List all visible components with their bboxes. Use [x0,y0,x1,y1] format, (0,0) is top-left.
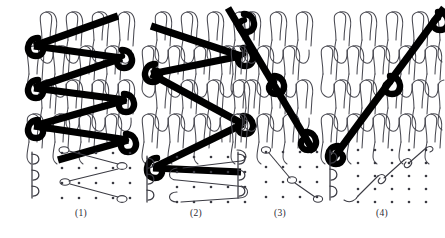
panel-4-artwork [322,0,442,205]
lapping-path [344,147,433,202]
panel-4-caption: (4) [322,208,442,218]
panel-3: (3) [230,0,330,238]
panel-3-caption: (3) [230,208,330,218]
panel-1-svg [22,0,140,205]
lapping-path [261,147,322,202]
panel-1-artwork [22,0,140,205]
panel-3-artwork [230,0,330,205]
needle-symbols [238,152,245,198]
panel-4: (4) [322,0,442,238]
panel-4-svg [322,0,442,205]
panel-1-caption: (1) [22,208,140,218]
panel-3-svg [230,0,330,205]
point-paper-dots [357,149,428,204]
panel-1: (1) [22,0,140,238]
figure-root: (1) [0,0,445,238]
needle-symbols [32,152,39,198]
panel-3-underlap-knots [239,14,316,150]
panel-3-lapping-diagram [238,147,323,202]
